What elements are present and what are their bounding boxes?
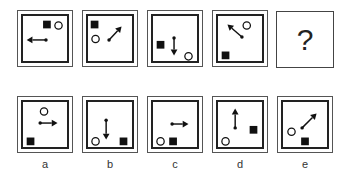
arrow-tail-dot xyxy=(240,35,243,38)
square-shape xyxy=(91,21,99,29)
arrow-head-icon xyxy=(52,120,58,127)
arrow-head-icon xyxy=(27,37,33,44)
arrow-tail-dot xyxy=(172,36,175,39)
question-mark: ? xyxy=(297,25,314,55)
arrow-tail-dot xyxy=(300,126,303,129)
square-shape xyxy=(169,138,177,146)
square-shape xyxy=(301,138,309,146)
square-shape xyxy=(27,138,35,146)
square-shape xyxy=(120,138,128,146)
sequence-panel-4 xyxy=(212,10,268,67)
arrow-tail-dot xyxy=(233,126,236,129)
arrow-head-icon xyxy=(171,50,178,56)
circle-shape xyxy=(243,22,250,29)
arrow-tail-dot xyxy=(104,118,107,121)
circle-shape xyxy=(222,138,229,145)
circle-shape xyxy=(288,128,295,135)
sequence-panel-2 xyxy=(82,10,138,67)
arrow-head-icon xyxy=(232,109,239,115)
square-shape xyxy=(157,41,165,49)
sequence-panel-3 xyxy=(147,10,203,67)
arrow-shaft xyxy=(302,118,312,128)
option-label-a: a xyxy=(17,158,73,170)
option-label-e: e xyxy=(277,158,333,170)
option-a[interactable] xyxy=(17,96,73,153)
circle-shape xyxy=(92,138,99,145)
circle-shape xyxy=(55,22,62,29)
option-c[interactable] xyxy=(147,96,203,153)
square-shape xyxy=(250,126,258,134)
question-panel: ? xyxy=(276,11,334,68)
arrow-tail-dot xyxy=(38,121,41,124)
option-label-b: b xyxy=(82,158,138,170)
circle-shape xyxy=(185,53,192,60)
circle-shape xyxy=(92,35,99,42)
arrow-tail-dot xyxy=(107,38,110,41)
option-label-c: c xyxy=(147,158,203,170)
square-shape xyxy=(43,21,51,29)
circle-shape xyxy=(40,108,47,115)
square-shape xyxy=(222,52,230,60)
option-label-d: d xyxy=(212,158,268,170)
sequence-panel-1 xyxy=(17,10,73,67)
arrow-tail-dot xyxy=(44,38,47,41)
arrow-shaft xyxy=(109,31,118,40)
option-e[interactable] xyxy=(277,96,333,153)
option-b[interactable] xyxy=(82,96,138,153)
arrow-head-icon xyxy=(103,134,110,140)
circle-shape xyxy=(157,138,164,145)
arrow-tail-dot xyxy=(170,122,173,125)
arrow-head-icon xyxy=(183,121,189,128)
arrow-shaft xyxy=(232,28,242,37)
option-d[interactable] xyxy=(212,96,268,153)
